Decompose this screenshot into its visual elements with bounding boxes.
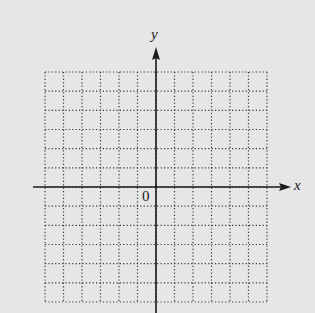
coordinate-plane [0,0,315,313]
x-axis-label: x [294,177,301,194]
y-axis-label: y [151,26,158,43]
origin-label: 0 [142,188,150,205]
